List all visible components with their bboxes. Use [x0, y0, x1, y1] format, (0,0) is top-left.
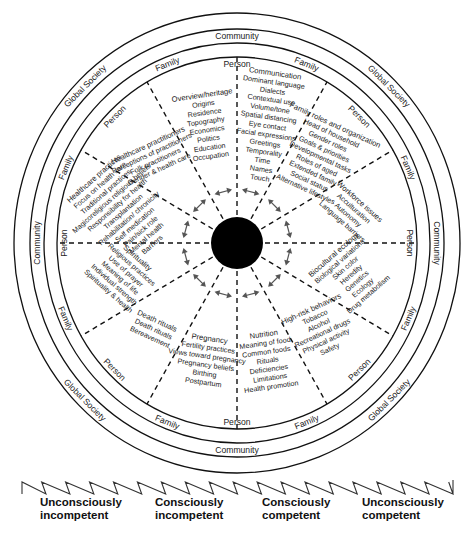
- double-arrow-icon: [214, 187, 233, 197]
- double-arrow-icon: [181, 247, 191, 266]
- double-arrow-icon: [191, 272, 208, 289]
- double-arrow-icon: [191, 197, 208, 214]
- ring-label-person: Person: [223, 417, 250, 427]
- stage-unconsciously-incompetent: Unconsciously incompetent: [40, 496, 122, 522]
- double-arrow-icon: [266, 272, 283, 289]
- stage-line2: incompetent: [155, 509, 223, 522]
- ring-label-family: Family: [154, 54, 182, 73]
- ring-label-global-society: Global Society: [366, 376, 413, 423]
- double-arrow-icon: [283, 220, 293, 239]
- ring-label-family: Family: [293, 55, 321, 74]
- domain-highrisk: High-risk behaviorsTobaccoAlcoholRecreat…: [280, 291, 361, 366]
- stage-line1: Consciously: [155, 496, 223, 509]
- ring-label-global-society: Global Society: [366, 63, 413, 110]
- double-arrow-icon: [266, 197, 283, 214]
- competence-zigzag-line: [22, 480, 453, 494]
- domain-item: Touch: [250, 172, 270, 184]
- stage-line1: Unconsciously: [362, 496, 444, 509]
- stage-line1: Consciously: [262, 496, 330, 509]
- ring-label-family: Family: [154, 413, 182, 432]
- ring-label-community: Community: [432, 221, 442, 265]
- ring-label-community: Community: [32, 221, 42, 265]
- cultural-competence-wheel: CommunityCommunityCommunityCommunityGlob…: [0, 0, 474, 536]
- double-arrow-icon: [241, 187, 260, 197]
- domain-death: Death ritualsDeath ritualsBereavement: [129, 308, 179, 350]
- center-core: [211, 217, 263, 269]
- stage-line2: competent: [362, 509, 444, 522]
- double-arrow-icon: [181, 220, 191, 239]
- stage-line1: Unconsciously: [40, 496, 122, 509]
- ring-label-community: Community: [215, 31, 259, 41]
- ring-label-global-society: Global Society: [62, 377, 109, 424]
- stage-consciously-competent: Consciously competent: [262, 496, 330, 522]
- ring-label-community: Community: [215, 445, 259, 455]
- ring-label-person: Person: [59, 229, 69, 256]
- stage-line2: competent: [262, 509, 330, 522]
- ring-label-person: Person: [223, 59, 250, 69]
- ring-label-person: Person: [405, 229, 415, 256]
- double-arrow-icon: [283, 247, 293, 266]
- ring-label-global-society: Global Society: [62, 62, 109, 109]
- ring-label-family: Family: [293, 412, 321, 431]
- domain-item: Postpartum: [184, 375, 222, 389]
- stage-unconsciously-competent: Unconsciously competent: [362, 496, 444, 522]
- double-arrow-icon: [214, 289, 233, 299]
- stage-line2: incompetent: [40, 509, 122, 522]
- double-arrow-icon: [241, 289, 260, 299]
- stage-consciously-incompetent: Consciously incompetent: [155, 496, 223, 522]
